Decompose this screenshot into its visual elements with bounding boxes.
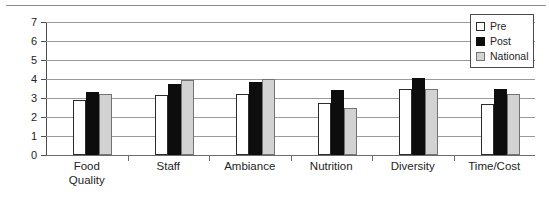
bar-post (412, 78, 425, 155)
bar-group (399, 22, 438, 155)
category-label: Nutrition (291, 160, 373, 174)
bar-pre (481, 104, 494, 155)
y-tick-mark (41, 136, 46, 137)
legend-label-national: National (490, 51, 529, 62)
top-divider-rule (6, 5, 546, 6)
chart-legend: Pre Post National (470, 14, 534, 68)
legend-item-post: Post (476, 34, 533, 49)
y-tick-label: 3 (31, 93, 37, 104)
y-tick-label: 2 (31, 112, 37, 123)
bar-group (73, 22, 112, 155)
bar-national (344, 108, 357, 155)
bar-group (236, 22, 275, 155)
y-tick-label: 7 (31, 17, 37, 28)
bar-post (494, 89, 507, 156)
category-label: Food Quality (46, 160, 128, 187)
category-label: Staff (128, 160, 210, 174)
bar-pre (236, 94, 249, 155)
y-tick-label: 6 (31, 36, 37, 47)
gridline (46, 136, 535, 137)
gridline (46, 98, 535, 99)
gridline (46, 117, 535, 118)
gridline (46, 60, 535, 61)
legend-item-national: National (476, 49, 533, 64)
y-tick-label: 1 (31, 131, 37, 142)
bar-national (507, 94, 520, 155)
gridline (46, 22, 535, 23)
category-label: Ambiance (209, 160, 291, 174)
legend-label-pre: Pre (490, 21, 506, 32)
legend-swatch-national-icon (476, 52, 485, 61)
bar-pre (318, 103, 331, 155)
legend-swatch-pre-icon (476, 22, 485, 31)
bar-pre (73, 100, 86, 155)
y-tick-mark (41, 60, 46, 61)
bar-pre (155, 95, 168, 155)
category-label: Diversity (372, 160, 454, 174)
bar-national (425, 89, 438, 156)
bar-group (155, 22, 194, 155)
y-tick-label: 0 (31, 150, 37, 161)
legend-swatch-post-icon (476, 37, 485, 46)
y-tick-mark (41, 41, 46, 42)
y-tick-mark (41, 79, 46, 80)
y-tick-mark (41, 22, 46, 23)
bar-national (181, 80, 194, 155)
bar-post (249, 82, 262, 155)
legend-item-pre: Pre (476, 19, 533, 34)
plot-area: 01234567 (46, 22, 535, 156)
y-tick-mark (41, 98, 46, 99)
bar-group (318, 22, 357, 155)
y-tick-label: 5 (31, 55, 37, 66)
bar-chart-figure: 01234567 Food QualityStaffAmbianceNutrit… (0, 0, 549, 197)
category-label: Time/Cost (454, 160, 536, 174)
legend-label-post: Post (490, 36, 511, 47)
bar-post (168, 84, 181, 155)
bar-national (99, 94, 112, 155)
y-tick-label: 4 (31, 74, 37, 85)
bar-pre (399, 89, 412, 156)
y-tick-mark (41, 155, 46, 156)
gridline (46, 41, 535, 42)
bar-post (331, 90, 344, 155)
bar-national (262, 79, 275, 155)
gridline (46, 79, 535, 80)
bar-post (86, 92, 99, 155)
y-tick-mark (41, 117, 46, 118)
